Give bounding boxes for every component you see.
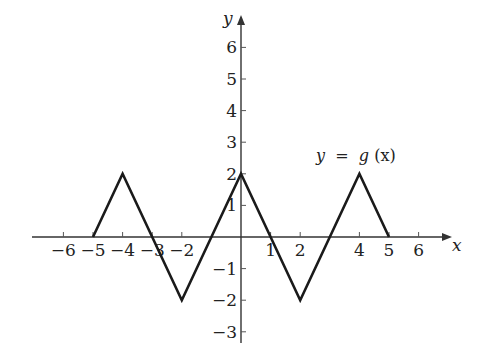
x-tick-label: 5 bbox=[384, 240, 395, 260]
x-tick-label: 2 bbox=[295, 240, 306, 260]
x-tick-label: 4 bbox=[354, 240, 365, 260]
y-axis-label: y bbox=[222, 8, 233, 28]
y-tick-label: 4 bbox=[226, 101, 237, 121]
function-label-eq: = bbox=[330, 146, 354, 165]
y-tick-label: 3 bbox=[226, 132, 237, 152]
function-label: y = g (x) bbox=[315, 146, 396, 165]
x-tick-label: −4 bbox=[110, 240, 135, 260]
x-tick-label: −6 bbox=[51, 240, 76, 260]
y-tick-label: 2 bbox=[226, 164, 237, 184]
y-tick-label: 1 bbox=[226, 195, 237, 215]
function-label-name: g bbox=[359, 146, 369, 165]
x-tick-label: −2 bbox=[169, 240, 194, 260]
y-tick-label: 5 bbox=[226, 69, 237, 89]
y-tick-label: −1 bbox=[212, 259, 237, 279]
y-axis-arrow-icon bbox=[237, 15, 245, 25]
y-tick-label: 6 bbox=[226, 37, 237, 57]
function-label-arg: (x) bbox=[374, 146, 396, 165]
graph-canvas: −6−5−4−3−212456654321−1−2−3 x y y = g (x… bbox=[0, 0, 479, 360]
x-axis-arrow-icon bbox=[442, 233, 452, 241]
y-tick-label: −2 bbox=[212, 290, 237, 310]
x-tick-label: −5 bbox=[80, 240, 105, 260]
function-label-lhs: y bbox=[315, 146, 326, 165]
y-tick-label: −3 bbox=[212, 322, 237, 342]
x-axis-label: x bbox=[452, 235, 462, 255]
x-tick-label: 6 bbox=[413, 240, 424, 260]
